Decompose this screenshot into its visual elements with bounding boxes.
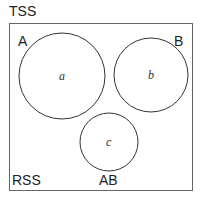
circle-b-label: b	[148, 68, 154, 82]
circle-c-label: c	[106, 135, 112, 149]
label-a-region: A	[18, 33, 28, 49]
rss-label: RSS	[12, 172, 41, 188]
outer-box	[10, 24, 193, 191]
ab-label: AB	[99, 172, 118, 188]
venn-diagram: TSS A B RSS AB a b c	[0, 0, 201, 200]
circle-a-label: a	[59, 69, 65, 83]
tss-label: TSS	[9, 3, 36, 19]
